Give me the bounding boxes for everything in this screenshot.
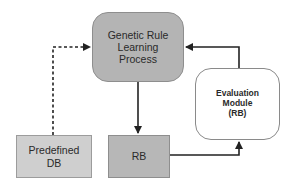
edge-evaluation-to-main [186, 47, 239, 68]
edge-predefined-to-main [53, 47, 90, 135]
node-label: Genetic Rule Learning Process [108, 29, 169, 65]
node-genetic-rule-learning-process: Genetic Rule Learning Process [92, 12, 184, 82]
node-predefined-db: Predefined DB [16, 135, 92, 178]
edge-rb-to-evaluation [170, 142, 239, 155]
node-evaluation-module: Evaluation Module (RB) [195, 68, 280, 140]
node-label: Evaluation Module (RB) [216, 89, 259, 118]
node-rb: RB [108, 135, 170, 178]
node-label: Predefined DB [29, 144, 80, 168]
diagram-canvas: Genetic Rule Learning Process Predefined… [0, 0, 292, 189]
node-label: RB [132, 150, 147, 162]
